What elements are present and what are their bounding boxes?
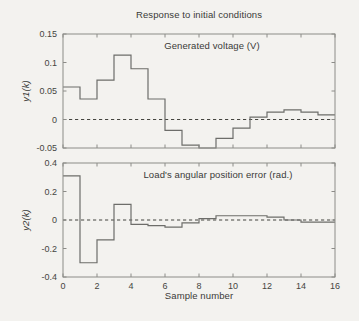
axes-top: 0.150.10.050-0.05: [36, 29, 335, 153]
y-tick-label: 0.4: [44, 158, 57, 168]
y-tick-label: 0.15: [39, 29, 57, 39]
stairs-series-line: [63, 176, 335, 263]
x-tick-label: 8: [196, 281, 201, 291]
x-tick-label: 0: [60, 281, 65, 291]
y-tick-label: 0: [52, 215, 57, 225]
y-tick-label: 0: [52, 115, 57, 125]
x-tick-label: 14: [296, 281, 306, 291]
figure-canvas: Response to initial conditions y1(k) y2(…: [0, 0, 359, 321]
y-tick-label: -0.4: [41, 272, 57, 282]
y-tick-label: 0.2: [44, 187, 57, 197]
y-tick-label: -0.2: [41, 244, 57, 254]
y-tick-label: 0.1: [44, 58, 57, 68]
axes-bottom: 0.40.20-0.2-0.40246810121416: [41, 158, 340, 291]
axes-box: [63, 34, 335, 148]
x-tick-label: 2: [94, 281, 99, 291]
y-tick-label: -0.05: [36, 143, 57, 153]
x-tick-label: 4: [128, 281, 133, 291]
x-tick-label: 16: [330, 281, 340, 291]
x-tick-label: 12: [262, 281, 272, 291]
y-tick-label: 0.05: [39, 86, 57, 96]
x-tick-label: 10: [228, 281, 238, 291]
stairs-series-line: [63, 55, 335, 148]
stairs-plots-svg: 0.150.10.050-0.050.40.20-0.2-0.402468101…: [0, 0, 359, 321]
x-tick-label: 6: [162, 281, 167, 291]
